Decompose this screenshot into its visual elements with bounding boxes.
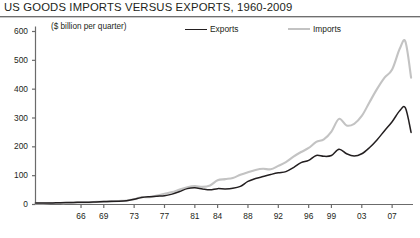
x-axis-tick-label: 81 xyxy=(185,211,205,221)
y-axis-tick-label: 0 xyxy=(0,199,28,209)
x-axis-tick-label: 99 xyxy=(321,211,341,221)
x-axis-tick-label: 66 xyxy=(71,211,91,221)
x-axis-tick-label: 77 xyxy=(154,211,174,221)
x-axis-tick-label: 07 xyxy=(382,211,402,221)
y-axis-tick-label: 600 xyxy=(0,26,28,36)
x-axis-tick-label: 73 xyxy=(124,211,144,221)
x-axis-tick-label: 03 xyxy=(352,211,372,221)
y-axis-tick-label: 100 xyxy=(0,170,28,180)
x-axis-tick-label: 84 xyxy=(208,211,228,221)
y-axis-tick-label: 200 xyxy=(0,141,28,151)
x-axis-tick-label: 88 xyxy=(238,211,258,221)
series-line-exports xyxy=(36,106,412,203)
y-axis-tick-label: 300 xyxy=(0,113,28,123)
x-axis-tick-label: 96 xyxy=(299,211,319,221)
chart-axes xyxy=(32,27,413,209)
chart-figure: US GOODS IMPORTS VERSUS EXPORTS, 1960-20… xyxy=(0,0,420,238)
y-axis-tick-label: 400 xyxy=(0,84,28,94)
chart-series-layer xyxy=(36,40,412,203)
x-axis-tick-label: 92 xyxy=(268,211,288,221)
chart-plot-area xyxy=(0,0,420,238)
x-axis-tick-label: 69 xyxy=(94,211,114,221)
y-axis-tick-label: 500 xyxy=(0,55,28,65)
series-line-imports xyxy=(36,40,412,203)
